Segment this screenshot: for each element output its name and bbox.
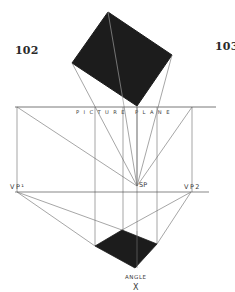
perspective-square (95, 230, 157, 268)
vp1-to-left (17, 192, 95, 246)
sp-label: SP (139, 181, 147, 189)
vp1-to-top (17, 192, 122, 230)
vp2-label: VP2 (184, 183, 201, 191)
vp2-to-top (122, 192, 191, 230)
vp2-to-right (157, 192, 191, 244)
sp-to-pp-right (137, 107, 192, 186)
angle-symbol: X (133, 283, 139, 292)
page-number-right: 103 (215, 40, 235, 53)
vp1-label: VP¹ (10, 183, 25, 191)
page-number-left: 102 (15, 44, 39, 57)
perspective-diagram: 102 103 PICTURE PLANE (0, 0, 235, 292)
vanishing-lines (17, 192, 191, 246)
angle-label: ANGLE (125, 274, 147, 280)
sp-to-pp-left (17, 107, 137, 186)
